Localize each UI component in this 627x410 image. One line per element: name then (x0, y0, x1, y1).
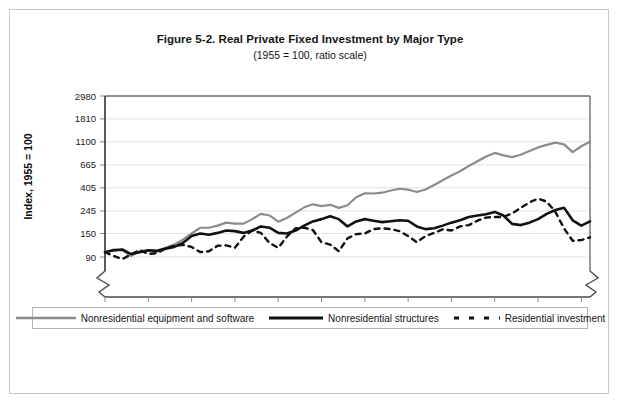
legend-item-residential: Residential investment (453, 313, 606, 324)
svg-text:90: 90 (85, 252, 96, 263)
svg-text:245: 245 (80, 205, 96, 216)
legend-item-equipment: Nonresidential equipment and software (15, 313, 254, 324)
legend-label-equipment: Nonresidential equipment and software (81, 313, 254, 324)
legend-label-structures: Nonresidential structures (328, 313, 439, 324)
svg-text:1810: 1810 (75, 113, 96, 124)
svg-text:2980: 2980 (75, 91, 96, 102)
figure-container: Figure 5-2. Real Private Fixed Investmen… (9, 9, 609, 394)
legend-item-structures: Nonresidential structures (268, 313, 439, 324)
series-line-2 (105, 199, 590, 259)
chart-plot: 90150245405665110018102980 1955196019651… (10, 62, 610, 307)
chart-subtitle: (1955 = 100, ratio scale) (10, 48, 610, 62)
svg-text:665: 665 (80, 159, 96, 170)
svg-text:405: 405 (80, 182, 96, 193)
legend-swatch-residential (453, 313, 501, 323)
legend-swatch-equipment (15, 313, 77, 323)
chart-title: Figure 5-2. Real Private Fixed Investmen… (10, 32, 610, 46)
data-series-group (105, 142, 590, 259)
y-tick-labels: 90150245405665110018102980 (75, 91, 96, 263)
y-axis-title: Index, 1955 = 100 (22, 133, 34, 219)
legend-swatch-structures (268, 313, 324, 323)
svg-text:150: 150 (80, 228, 96, 239)
axis-lines (97, 96, 598, 302)
series-line-1 (105, 208, 590, 254)
chart-legend: Nonresidential equipment and software No… (32, 307, 588, 329)
title-block: Figure 5-2. Real Private Fixed Investmen… (10, 32, 610, 62)
legend-label-residential: Residential investment (505, 313, 606, 324)
svg-text:1100: 1100 (76, 136, 96, 147)
